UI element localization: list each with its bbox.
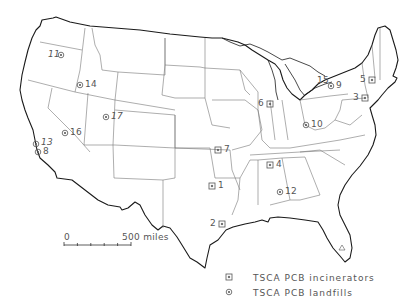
- scale-max-label: 500 miles: [122, 232, 169, 242]
- landfill-markers: [33, 52, 334, 195]
- incinerator-icon-5: [369, 77, 375, 83]
- site-label-13: 13: [41, 138, 53, 147]
- scale-min-label: 0: [64, 232, 70, 242]
- legend-item-landfills: TSCA PCB landfills: [225, 285, 375, 300]
- landfill-icon-14: [77, 82, 83, 88]
- site-label-6: 6: [258, 99, 264, 108]
- site-label-5: 5: [360, 75, 366, 84]
- scale-bar: 0 500 miles: [62, 232, 137, 256]
- site-label-4: 4: [276, 160, 282, 169]
- site-label-10: 10: [311, 120, 323, 129]
- legend-label-landfills: TSCA PCB landfills: [253, 288, 353, 298]
- site-label-9: 9: [336, 81, 342, 90]
- landfill-icon-17: [103, 114, 109, 120]
- site-label-8: 8: [43, 147, 49, 156]
- landfill-icon-9: [328, 83, 334, 89]
- lake-okeechobee: [339, 245, 345, 250]
- site-label-15: 15: [317, 76, 329, 85]
- site-label-16: 16: [70, 128, 82, 137]
- legend-label-incinerators: TSCA PCB incinerators: [253, 273, 375, 283]
- great-lakes: [222, 38, 332, 100]
- site-label-11: 11: [48, 50, 60, 59]
- site-label-3: 3: [353, 93, 359, 102]
- landfill-icon-12: [277, 189, 283, 195]
- incinerator-icon-1: [209, 183, 215, 189]
- us-outline: [20, 17, 398, 268]
- site-label-2: 2: [210, 219, 216, 228]
- us-map: [0, 0, 411, 308]
- site-label-1: 1: [218, 181, 224, 190]
- site-label-14: 14: [85, 80, 97, 89]
- landfill-icon-10: [303, 122, 309, 128]
- incinerator-icon-4: [267, 162, 273, 168]
- legend-item-incinerators: TSCA PCB incinerators: [225, 270, 375, 285]
- site-label-12: 12: [285, 187, 297, 196]
- site-label-17: 17: [111, 112, 123, 121]
- site-label-7: 7: [224, 145, 230, 154]
- incinerator-icon-7: [215, 147, 221, 153]
- incinerator-icon-2: [219, 221, 225, 227]
- legend: TSCA PCB incinerators TSCA PCB landfills: [225, 270, 375, 300]
- landfill-icon-16: [62, 130, 68, 136]
